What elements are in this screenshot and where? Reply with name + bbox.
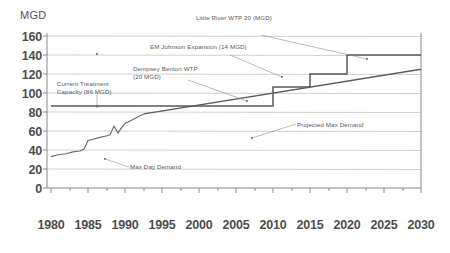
x-axis-ticks bbox=[51, 188, 421, 193]
y-axis-ticks bbox=[43, 36, 47, 188]
annotation-dempsey-benton: Dempsey Benton WTP (20 MGD) bbox=[133, 65, 198, 81]
annotation-max-day-demand: Max Day Demand bbox=[130, 163, 181, 171]
annotation-current-capacity: Current Treatment Capacity (86 MGD) bbox=[57, 80, 112, 96]
chart-plot bbox=[0, 0, 450, 253]
annotation-em-johnson: EM Johnson Expansion (14 MGD) bbox=[150, 43, 247, 51]
annotation-little-river: Little River WTP 20 (MGD) bbox=[196, 14, 272, 22]
chart-container: MGD 160 140 120 100 80 60 40 20 0 1980 1… bbox=[0, 0, 450, 253]
axis-lines bbox=[47, 33, 421, 188]
annotation-projected-max-demand: Projected Max Demand bbox=[297, 121, 364, 129]
gridlines bbox=[47, 36, 421, 170]
